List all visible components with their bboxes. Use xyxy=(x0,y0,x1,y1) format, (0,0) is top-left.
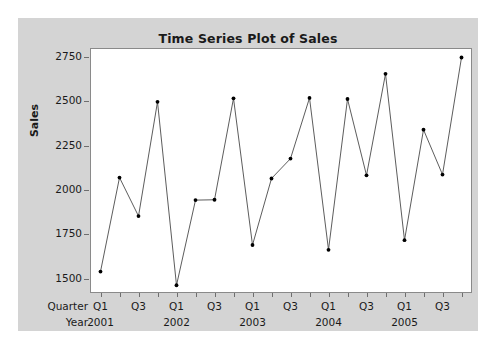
data-point-marker xyxy=(118,176,122,180)
x-axis-quarter-label: Q3 xyxy=(283,300,298,312)
chart-figure-panel: Time Series Plot of Sales Sales 15001750… xyxy=(18,18,478,331)
x-axis-tick-mark xyxy=(234,293,235,297)
y-axis-tick-marks xyxy=(18,48,90,293)
x-axis-tick-mark xyxy=(139,293,140,297)
data-point-marker xyxy=(194,198,198,202)
y-axis-tick-mark xyxy=(84,57,89,58)
data-point-marker xyxy=(232,96,236,100)
x-axis-quarter-label: Q1 xyxy=(321,300,336,312)
data-point-marker xyxy=(156,100,160,104)
series-line-sales xyxy=(101,58,462,286)
x-axis-tick-mark xyxy=(291,293,292,297)
x-axis-quarter-label: Q1 xyxy=(169,300,184,312)
series-plot xyxy=(91,49,471,292)
data-point-marker xyxy=(137,214,141,218)
data-point-marker xyxy=(346,97,350,101)
x-axis-year-label: 2004 xyxy=(315,316,342,328)
x-axis-tick-mark xyxy=(443,293,444,297)
x-axis-tick-mark xyxy=(120,293,121,297)
x-axis-row-title-year: Year xyxy=(26,316,88,328)
x-axis-quarter-label: Q3 xyxy=(207,300,222,312)
data-point-marker xyxy=(327,248,331,252)
data-point-marker xyxy=(308,96,312,100)
data-point-marker xyxy=(99,270,103,274)
chart-title: Time Series Plot of Sales xyxy=(18,31,478,46)
x-axis-year-label: 2005 xyxy=(391,316,418,328)
x-axis-year-label: 2003 xyxy=(239,316,266,328)
x-axis-quarter-label: Q3 xyxy=(131,300,146,312)
screenshot-root: Time Series Plot of Sales Sales 15001750… xyxy=(0,0,496,349)
x-axis-tick-mark xyxy=(405,293,406,297)
x-axis-year-label: 2002 xyxy=(163,316,190,328)
data-point-marker xyxy=(403,238,407,242)
x-axis-tick-mark xyxy=(386,293,387,297)
data-point-marker xyxy=(384,72,388,76)
y-axis-tick-mark xyxy=(84,234,89,235)
data-point-marker xyxy=(365,173,369,177)
x-axis-tick-mark xyxy=(101,293,102,297)
x-axis-tick-mark xyxy=(215,293,216,297)
data-point-marker xyxy=(441,173,445,177)
x-axis-tick-mark xyxy=(348,293,349,297)
x-axis-tick-mark xyxy=(424,293,425,297)
x-axis-tick-mark xyxy=(177,293,178,297)
x-axis-tick-mark xyxy=(196,293,197,297)
x-axis-quarter-label: Q1 xyxy=(245,300,260,312)
y-axis-tick-mark xyxy=(84,146,89,147)
plot-area xyxy=(90,48,472,293)
data-point-marker xyxy=(213,198,217,202)
x-axis-year-label: 2001 xyxy=(87,316,114,328)
x-axis-tick-mark xyxy=(367,293,368,297)
data-point-marker xyxy=(422,128,426,132)
x-axis-tick-mark xyxy=(462,293,463,297)
x-axis-tick-mark xyxy=(253,293,254,297)
data-point-marker xyxy=(289,157,293,161)
x-axis-tick-mark xyxy=(329,293,330,297)
x-axis-quarter-label: Q1 xyxy=(93,300,108,312)
x-axis-quarter-label: Q1 xyxy=(397,300,412,312)
y-axis-tick-mark xyxy=(84,190,89,191)
data-point-marker xyxy=(175,283,179,287)
x-axis-tick-mark xyxy=(158,293,159,297)
data-point-marker xyxy=(270,177,274,181)
x-axis-quarter-label: Q3 xyxy=(435,300,450,312)
x-axis-labels: Quarter Year Q1Q3Q1Q3Q1Q3Q1Q3Q1Q32001200… xyxy=(18,298,478,332)
data-point-marker xyxy=(460,56,464,60)
data-point-marker xyxy=(251,243,255,247)
y-axis-tick-mark xyxy=(84,101,89,102)
y-axis-tick-mark xyxy=(84,279,89,280)
x-axis-quarter-label: Q3 xyxy=(359,300,374,312)
x-axis-tick-mark xyxy=(310,293,311,297)
x-axis-tick-mark xyxy=(272,293,273,297)
x-axis-row-title-quarter: Quarter xyxy=(26,300,88,312)
